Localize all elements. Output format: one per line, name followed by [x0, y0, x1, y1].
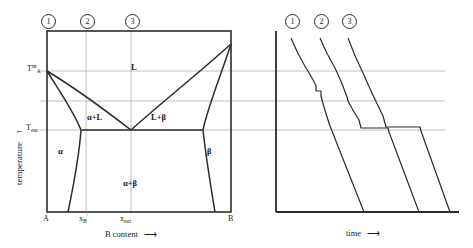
solidus-alpha: [47, 71, 81, 130]
marker-curve-3[interactable]: 3: [342, 14, 357, 29]
marker-curve-1[interactable]: 1: [285, 14, 300, 29]
temperature-axis-label: temperature ↑: [14, 129, 24, 185]
region-alpha-plus-beta-label: α+β: [123, 178, 137, 188]
region-alpha: α: [58, 147, 63, 156]
marker-composition-1[interactable]: 1: [41, 14, 56, 29]
x-tick-b-prime-sup: ′: [87, 213, 88, 219]
solvus-alpha: [68, 130, 81, 212]
phase-diagram-figure: temperature ↑ TmA Teut L α+L L+β α β α+β…: [0, 0, 473, 248]
x-tick-b-label: B: [228, 214, 233, 223]
solvus-beta: [203, 130, 215, 212]
region-liquid-plus-beta: L+β: [151, 113, 166, 122]
marker-curve-2-label: 2: [320, 17, 324, 26]
time-axis-arrow: ⟶: [367, 228, 380, 238]
region-beta-label: β: [207, 146, 211, 156]
x-tick-a-label: A: [43, 214, 49, 223]
phase-diagram-frame: [47, 31, 231, 212]
temperature-axis-arrow: ↑: [14, 129, 24, 134]
marker-curve-3-label: 3: [348, 17, 352, 26]
marker-composition-3[interactable]: 3: [125, 14, 140, 29]
time-axis-label: time ⟶: [346, 229, 380, 238]
x-tick-eutectic: xeut: [120, 215, 131, 223]
y-tick-t-eutectic-sub: eut: [31, 127, 38, 133]
marker-curve-1-label: 1: [291, 17, 295, 26]
b-content-axis-label: B content ⟶: [105, 230, 157, 239]
marker-composition-2-label: 2: [86, 17, 90, 26]
y-tick-t-eutectic: Teut: [26, 124, 38, 132]
region-alpha-plus-beta: α+β: [123, 179, 137, 188]
x-tick-a: A: [43, 215, 49, 223]
phase-boundaries: [47, 44, 231, 212]
region-liquid: L: [131, 63, 137, 72]
cooling-curve-1: [291, 38, 364, 212]
marker-composition-3-label: 3: [131, 17, 135, 26]
y-tick-t-melt-a-sub: A: [36, 68, 40, 74]
cooling-curve-3: [348, 38, 450, 212]
region-liquid-plus-beta-label: L+β: [151, 112, 166, 122]
marker-composition-2[interactable]: 2: [80, 14, 95, 29]
marker-curve-2[interactable]: 2: [314, 14, 329, 29]
cooling-curve-2: [320, 38, 419, 212]
x-tick-b: B: [228, 215, 233, 223]
region-beta: β: [207, 147, 211, 156]
cooling-curve-axes: [276, 31, 459, 212]
y-tick-t-melt-a: TmA: [27, 65, 41, 73]
b-content-axis-text: B content: [105, 229, 138, 239]
region-alpha-plus-liquid: α+L: [87, 113, 102, 122]
b-content-axis-arrow: ⟶: [144, 229, 157, 239]
x-tick-b-prime: xB′: [79, 215, 88, 223]
x-tick-eutectic-sub: eut: [124, 218, 131, 224]
temperature-axis-text: temperature: [14, 142, 24, 185]
marker-composition-1-label: 1: [47, 17, 51, 26]
cooling-curves: [291, 38, 450, 212]
region-liquid-label: L: [131, 62, 137, 72]
figure-canvas: [0, 0, 473, 248]
region-alpha-plus-liquid-label: α+L: [87, 112, 102, 122]
time-axis-text: time: [346, 228, 361, 238]
region-alpha-label: α: [58, 146, 63, 156]
